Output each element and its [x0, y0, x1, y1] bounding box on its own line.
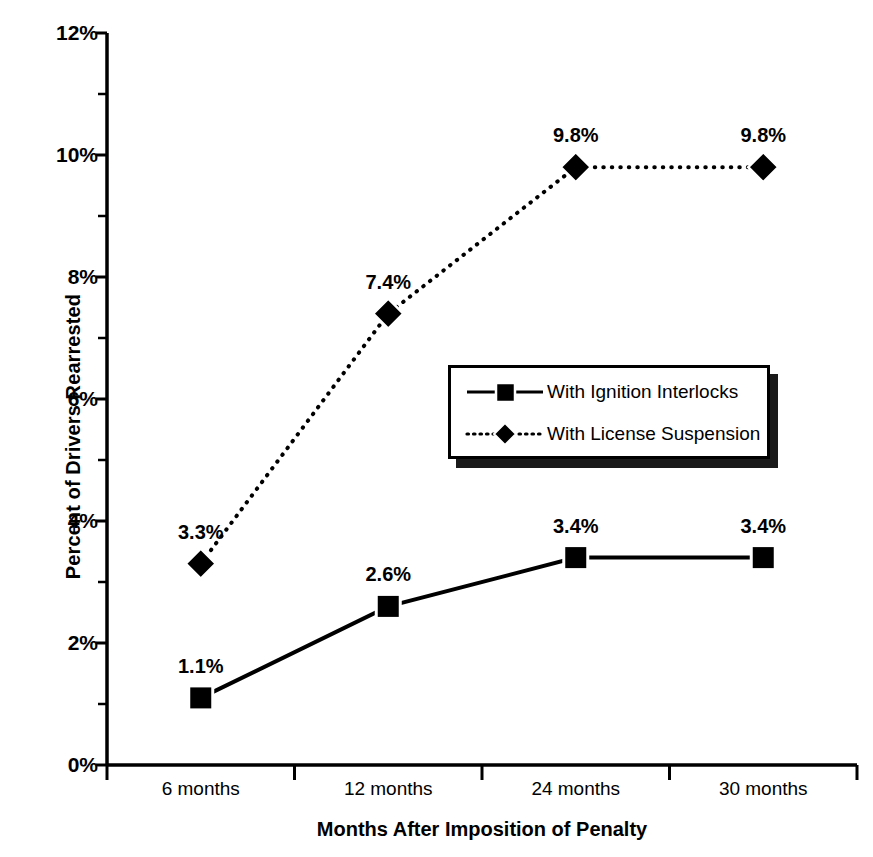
data-point-label: 7.4% [333, 271, 443, 294]
chart-container: Percent of Drivers Rearrested 0%2%4%6%8%… [0, 0, 873, 857]
data-point-marker-square-core [755, 549, 772, 566]
data-point-label: 3.4% [708, 515, 818, 538]
data-point-label: 9.8% [521, 124, 631, 147]
legend-item-ignition-interlocks: With Ignition Interlocks [451, 370, 767, 414]
legend-label-license-suspension: With License Suspension [547, 423, 760, 445]
data-point-marker-square-core [567, 549, 584, 566]
legend-label-ignition-interlocks: With Ignition Interlocks [547, 381, 738, 403]
series-line-1 [201, 558, 764, 698]
data-point-label: 3.3% [146, 521, 256, 544]
legend-item-license-suspension: With License Suspension [451, 412, 767, 456]
data-point-label: 1.1% [146, 655, 256, 678]
data-point-label: 2.6% [333, 563, 443, 586]
legend-marker-diamond-dotted-line [463, 419, 547, 449]
data-point-marker-square-core [380, 598, 397, 615]
data-point-label: 9.8% [708, 124, 818, 147]
x-axis-tick-label: 30 months [673, 778, 853, 800]
x-axis-tick-label: 12 months [298, 778, 478, 800]
x-axis-tick-label: 6 months [111, 778, 291, 800]
x-axis-title: Months After Imposition of Penalty [107, 818, 857, 841]
data-point-marker-square-core [192, 689, 209, 706]
x-axis-tick-label: 24 months [486, 778, 666, 800]
data-point-label: 3.4% [521, 515, 631, 538]
legend: With Ignition Interlocks With License Su… [448, 365, 770, 459]
legend-marker-square-solid-line [463, 377, 547, 407]
